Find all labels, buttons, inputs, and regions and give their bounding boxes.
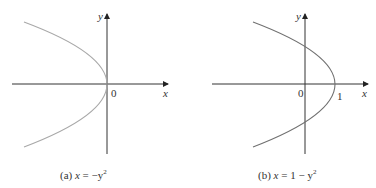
caption-prefix: (b) <box>258 169 274 182</box>
parabola-diagrams: y x 0 (a) x = −y2 y x 0 1 (b) x = 1 − y2 <box>0 0 376 188</box>
vertex-label: 1 <box>337 90 343 102</box>
y-axis-label: y <box>97 10 103 22</box>
origin-label: 0 <box>298 87 304 99</box>
panel-b: y x 0 1 (b) x = 1 − y2 <box>212 10 368 182</box>
panel-a: y x 0 (a) x = −y2 <box>12 10 168 182</box>
x-axis-label: x <box>162 87 168 99</box>
caption-exponent: 2 <box>313 168 317 176</box>
origin-label: 0 <box>111 87 117 99</box>
caption-rhs: = 1 − y <box>278 169 313 181</box>
x-axis-label: x <box>361 87 367 99</box>
caption-exponent: 2 <box>103 168 107 176</box>
caption-prefix: (a) <box>60 169 75 182</box>
caption-b: (b) x = 1 − y2 <box>258 168 317 182</box>
caption-a: (a) x = −y2 <box>60 168 107 182</box>
caption-rhs: = −y <box>80 169 104 181</box>
y-axis-label: y <box>295 10 301 22</box>
